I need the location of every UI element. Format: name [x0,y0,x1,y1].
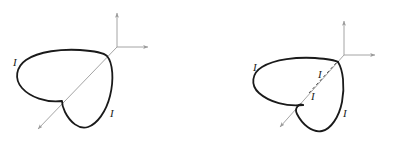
hidden-segment-dashed [309,62,337,93]
current-label-lower-right: I [342,107,348,119]
figure-left-current-loop: I I [0,0,197,143]
figure-right-current-loop: I I I I [197,0,394,143]
current-label-lower-right: I [109,107,115,119]
current-loop-rear-path [253,58,338,106]
current-loop-path [17,50,112,128]
current-label-left: I [12,56,18,68]
current-label-upper-middle: I [317,68,323,80]
axis-diagonal [38,47,117,129]
current-label-lower-middle: I [310,90,316,102]
figure-right-canvas: I I I I [197,0,394,143]
figure-left-canvas: I I [0,0,197,143]
figure-page: I I I I I I [0,0,394,143]
